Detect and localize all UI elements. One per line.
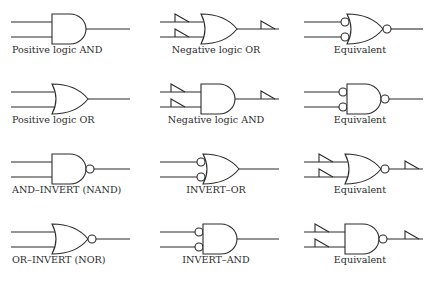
- gate-symbol: [288, 140, 432, 190]
- gate-group: [304, 154, 423, 184]
- gate-symbol: [144, 0, 288, 50]
- gate-symbol: [0, 210, 144, 260]
- gate-group: [160, 84, 279, 114]
- input-a-inversion-bubble-icon: [197, 158, 205, 166]
- or-gate-body-icon: [52, 84, 88, 114]
- input-a-inversion-bubble-icon: [341, 18, 349, 26]
- input-b-inversion-bubble-icon: [341, 33, 349, 41]
- input-a-inversion-bubble-icon: [339, 88, 347, 96]
- gate-symbol: [288, 70, 432, 120]
- input-a-inversion-bubble-icon: [195, 228, 203, 236]
- or-gate-body-icon: [347, 14, 383, 44]
- gate-cell: INVERT–AND: [144, 210, 288, 281]
- gate-cell: OR–INVERT (NOR): [0, 210, 144, 281]
- input-b-inversion-bubble-icon: [197, 173, 205, 181]
- output-polarity-indicator-icon: [405, 161, 419, 169]
- input-b-polarity-indicator-icon: [315, 239, 329, 247]
- gate-group: [11, 224, 130, 254]
- output-inversion-bubble-icon: [381, 95, 389, 103]
- gate-cell: Equivalent: [288, 140, 432, 211]
- gate-cell: Positive logic OR: [0, 70, 144, 141]
- gate-group: [304, 14, 423, 44]
- gate-label: Equivalent: [288, 44, 432, 55]
- gate-symbol: [288, 0, 432, 50]
- and-gate-body-icon: [203, 224, 237, 254]
- and-gate-body-icon: [201, 84, 235, 114]
- gate-group: [160, 224, 279, 254]
- input-b-inversion-bubble-icon: [195, 243, 203, 251]
- logic-gate-equivalence-diagram: Positive logic ANDNegative logic OREquiv…: [0, 0, 432, 285]
- gate-symbol: [288, 210, 432, 260]
- output-inversion-bubble-icon: [379, 235, 387, 243]
- input-a-polarity-indicator-icon: [315, 224, 329, 232]
- gate-group: [160, 154, 279, 184]
- input-a-polarity-indicator-icon: [171, 84, 185, 92]
- gate-symbol: [0, 140, 144, 190]
- gate-label: Negative logic AND: [144, 114, 288, 125]
- gate-label: INVERT–OR: [144, 184, 288, 195]
- output-polarity-indicator-icon: [261, 21, 275, 29]
- gate-symbol: [0, 70, 144, 120]
- gate-cell: Equivalent: [288, 0, 432, 71]
- output-polarity-indicator-icon: [405, 231, 419, 239]
- gate-group: [11, 84, 130, 114]
- input-a-polarity-indicator-icon: [319, 154, 333, 162]
- input-b-polarity-indicator-icon: [319, 169, 333, 177]
- gate-label: Positive logic OR: [0, 114, 144, 125]
- gate-group: [160, 14, 279, 44]
- gate-label: OR–INVERT (NOR): [0, 254, 144, 265]
- gate-cell: Positive logic AND: [0, 0, 144, 71]
- or-gate-body-icon: [203, 154, 239, 184]
- output-inversion-bubble-icon: [88, 235, 96, 243]
- input-b-polarity-indicator-icon: [175, 29, 189, 37]
- gate-cell: Negative logic AND: [144, 70, 288, 141]
- gate-group: [11, 154, 130, 184]
- input-b-polarity-indicator-icon: [171, 99, 185, 107]
- and-gate-body-icon: [52, 14, 86, 44]
- input-a-polarity-indicator-icon: [175, 14, 189, 22]
- and-gate-body-icon: [52, 154, 86, 184]
- gate-label: AND–INVERT (NAND): [0, 184, 144, 195]
- input-b-inversion-bubble-icon: [339, 103, 347, 111]
- gate-group: [304, 224, 423, 254]
- or-gate-body-icon: [52, 224, 88, 254]
- output-inversion-bubble-icon: [383, 25, 391, 33]
- gate-cell: Negative logic OR: [144, 0, 288, 71]
- gate-cell: INVERT–OR: [144, 140, 288, 211]
- gate-group: [304, 84, 423, 114]
- gate-label: Positive logic AND: [0, 44, 144, 55]
- or-gate-body-icon: [201, 14, 237, 44]
- output-polarity-indicator-icon: [261, 91, 275, 99]
- gate-label: Equivalent: [288, 114, 432, 125]
- gate-symbol: [0, 0, 144, 50]
- output-inversion-bubble-icon: [381, 165, 389, 173]
- output-inversion-bubble-icon: [86, 165, 94, 173]
- gate-label: Equivalent: [288, 184, 432, 195]
- gate-symbol: [144, 140, 288, 190]
- gate-cell: Equivalent: [288, 70, 432, 141]
- gate-label: Negative logic OR: [144, 44, 288, 55]
- or-gate-body-icon: [345, 154, 381, 184]
- gate-label: INVERT–AND: [144, 254, 288, 265]
- gate-label: Equivalent: [288, 254, 432, 265]
- gate-symbol: [144, 210, 288, 260]
- gate-cell: Equivalent: [288, 210, 432, 281]
- and-gate-body-icon: [345, 224, 379, 254]
- gate-cell: AND–INVERT (NAND): [0, 140, 144, 211]
- gate-group: [11, 14, 130, 44]
- gate-symbol: [144, 70, 288, 120]
- and-gate-body-icon: [347, 84, 381, 114]
